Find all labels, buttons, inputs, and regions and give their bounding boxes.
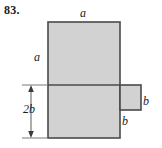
label-b-bottom: b <box>122 114 128 129</box>
label-b-right: b <box>143 94 149 109</box>
figure-page: 83. a a b b 2b <box>0 0 162 148</box>
label-2b: 2b <box>23 102 35 117</box>
l-shape-diagram <box>0 0 162 148</box>
label-a-left: a <box>34 50 40 65</box>
small-rectangle <box>120 85 141 110</box>
label-a-top: a <box>80 6 86 21</box>
arrowhead-up-icon <box>28 85 34 92</box>
arrowhead-down-icon <box>28 131 34 138</box>
main-rectangle <box>48 22 120 138</box>
